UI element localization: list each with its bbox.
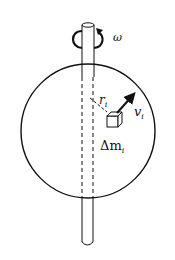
rotating-sphere-diagram: ω ri vi Δmi [0,0,175,260]
mass-element-label: Δmi [100,138,125,155]
velocity-label: vi [134,104,144,121]
mass-element-cube-icon [107,112,122,127]
velocity-arrow-icon [117,95,133,113]
radius-label: ri [99,93,108,109]
omega-label: ω [113,31,122,44]
diagram-svg: ω ri vi Δmi [0,0,175,260]
sphere [21,64,155,198]
rotation-axis-rod [82,23,94,245]
angular-velocity-arrow-icon [73,28,103,48]
